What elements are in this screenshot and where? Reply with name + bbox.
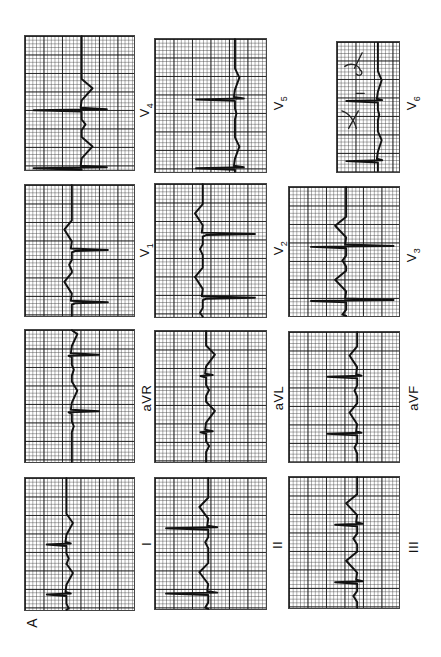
lead-label-i: I xyxy=(139,542,154,546)
ecg-panel-i xyxy=(24,477,135,611)
ecg-trace-v5 xyxy=(155,39,266,172)
lead-subscript: 2 xyxy=(279,241,289,247)
lead-name: V xyxy=(271,101,286,110)
ecg-panel-v5 xyxy=(154,38,267,173)
ecg-trace-avl xyxy=(155,331,266,462)
lead-subscript: 6 xyxy=(412,96,422,102)
lead-name: V xyxy=(271,246,286,255)
lead-name: V xyxy=(137,108,152,117)
ecg-panel-v1 xyxy=(24,184,135,317)
lead-subscript: 3 xyxy=(412,248,422,254)
lead-subscript: 5 xyxy=(279,96,289,102)
lead-name: aVL xyxy=(271,386,286,411)
lead-label-avl: aVL xyxy=(271,386,286,411)
lead-subscript: 4 xyxy=(145,103,155,109)
handwriting-mark xyxy=(342,53,364,129)
lead-subscript: 1 xyxy=(145,243,155,249)
lead-name: I xyxy=(139,542,154,546)
lead-label-v3: V3 xyxy=(404,248,422,263)
ecg-panel-v2 xyxy=(154,183,267,318)
lead-label-v2: V2 xyxy=(271,241,289,256)
ecg-trace-v2 xyxy=(155,184,266,317)
ecg-panel-avr xyxy=(24,329,135,463)
lead-label-v6: V6 xyxy=(404,96,422,111)
ecg-panel-avl xyxy=(154,330,267,463)
ecg-panel-v3 xyxy=(288,186,400,317)
ecg-panel-ii xyxy=(154,477,267,610)
ecg-panel-avf xyxy=(288,331,400,463)
lead-name: V xyxy=(404,253,419,262)
ecg-trace-v1 xyxy=(25,185,134,316)
lead-label-ii: II xyxy=(270,541,285,549)
lead-label-v1: V1 xyxy=(137,243,155,258)
lead-label-avr: aVR xyxy=(139,385,154,412)
ecg-trace-v4 xyxy=(25,36,134,170)
ecg-trace-avr xyxy=(25,330,134,462)
ecg-trace-ii xyxy=(155,478,266,609)
lead-label-v5: V5 xyxy=(271,96,289,111)
lead-name: V xyxy=(404,101,419,110)
ecg-panel-v4 xyxy=(24,35,135,171)
lead-label-avf: aVF xyxy=(406,385,421,410)
ecg-trace-v6 xyxy=(337,42,399,172)
ecg-trace-iii xyxy=(289,477,399,608)
lead-name: V xyxy=(137,248,152,257)
lead-name: III xyxy=(406,541,421,553)
lead-label-v4: V4 xyxy=(137,103,155,118)
lead-name: aVR xyxy=(139,385,154,412)
ecg-panel-v6 xyxy=(336,41,400,173)
figure-letter: A xyxy=(24,618,40,627)
lead-label-iii: III xyxy=(406,541,421,553)
ecg-trace-avf xyxy=(289,332,399,462)
lead-name: aVF xyxy=(406,385,421,410)
ecg-panel-iii xyxy=(288,476,400,609)
ecg-trace-v3 xyxy=(289,187,399,316)
ecg-trace-i xyxy=(25,478,134,610)
lead-name: II xyxy=(270,541,285,549)
